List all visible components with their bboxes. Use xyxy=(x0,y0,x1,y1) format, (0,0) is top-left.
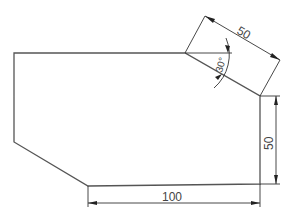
technical-drawing: 50 30° 50 100 xyxy=(0,0,293,216)
slant-extension-left xyxy=(185,16,205,53)
slant-dimension-label: 50 xyxy=(235,23,254,42)
angle-label: 30° xyxy=(213,56,228,73)
right-arrow-top xyxy=(274,96,278,105)
slant-arrow-end xyxy=(270,53,280,60)
slant-extension-right xyxy=(260,60,280,96)
slant-arrow-start xyxy=(205,16,215,23)
bottom-arrow-left xyxy=(88,201,97,205)
right-dimension-label: 50 xyxy=(262,136,276,150)
bottom-arrow-right xyxy=(251,201,260,205)
angle-arrow-bottom xyxy=(215,74,222,80)
bottom-dimension-label: 100 xyxy=(162,190,182,204)
right-arrow-bottom xyxy=(274,175,278,184)
